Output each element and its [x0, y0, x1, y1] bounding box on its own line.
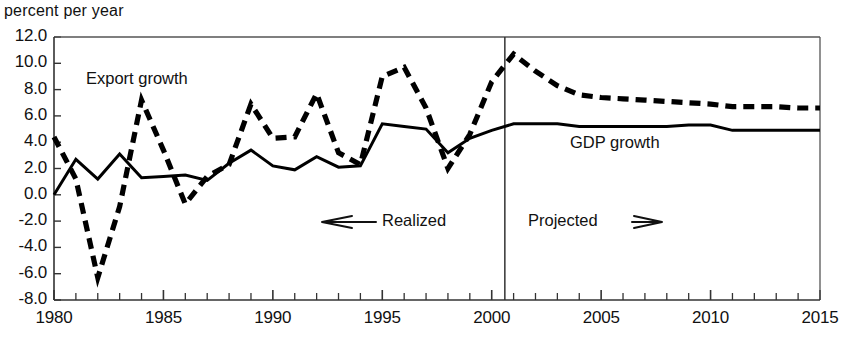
- y-tick-label: 10.0: [0, 52, 47, 72]
- y-tick-label: 0.0: [0, 184, 47, 204]
- x-tick-label: 2010: [676, 308, 746, 328]
- y-tick-label: 12.0: [0, 26, 47, 46]
- export-growth-label: Export growth: [86, 69, 188, 88]
- x-tick-label: 1995: [347, 308, 417, 328]
- gdp-growth-label: GDP growth: [570, 133, 660, 152]
- chart-figure: percent per year 12.010.08.06.04.02.00.0…: [0, 0, 841, 355]
- y-tick-label: -8.0: [0, 289, 47, 309]
- left-arrow-icon: [322, 216, 376, 228]
- x-tick-label: 2015: [785, 308, 841, 328]
- x-tick-label: 1985: [128, 308, 198, 328]
- realized-label: Realized: [382, 211, 446, 230]
- y-tick-label: 4.0: [0, 131, 47, 151]
- y-tick-label: -4.0: [0, 236, 47, 256]
- x-tick-label: 1990: [238, 308, 308, 328]
- cropped-caption-bleed: [0, 349, 841, 355]
- y-tick-label: 2.0: [0, 158, 47, 178]
- chart-plot-area: [0, 0, 841, 355]
- annotation-arrows: [322, 216, 662, 228]
- x-tick-label: 2005: [566, 308, 636, 328]
- y-tick-label: -6.0: [0, 263, 47, 283]
- y-tick-label: -2.0: [0, 210, 47, 230]
- x-tick-label: 2000: [457, 308, 527, 328]
- right-arrow-icon: [632, 216, 662, 228]
- projected-label: Projected: [528, 211, 598, 230]
- y-tick-label: 8.0: [0, 79, 47, 99]
- y-tick-label: 6.0: [0, 105, 47, 125]
- x-tick-label: 1980: [19, 308, 89, 328]
